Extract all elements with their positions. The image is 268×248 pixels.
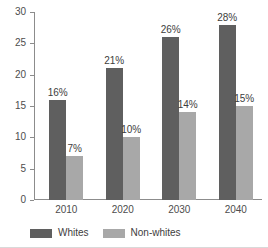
x-axis-label-2040: 2040 [206,205,266,215]
bar-group: 21%10% [106,12,140,200]
y-axis-tick [30,75,34,76]
legend-swatch-icon [103,229,125,238]
y-axis-tick-label: 5 [20,164,26,174]
bar-whites-2020: 21% [106,68,123,200]
y-axis-tick-label: 20 [15,70,26,80]
bar-whites-2040: 28% [219,25,236,200]
y-axis-tick [30,43,34,44]
y-axis-tick [30,106,34,107]
x-axis-label-2010: 2010 [36,205,96,215]
bar-group: 16%7% [49,12,83,200]
plot-area: 05101520253016%7%21%10%26%14%28%15% [34,12,260,200]
bar-value-label: 21% [104,56,124,66]
legend-label: Non-whites [131,228,181,238]
bar-non-whites-2010: 7% [66,156,83,200]
bar-value-label: 28% [217,13,237,23]
bar-non-whites-2020: 10% [123,137,140,200]
legend-item-whites[interactable]: Whites [30,228,89,238]
bar-value-label: 15% [234,94,254,104]
bar-value-label: 14% [178,100,198,110]
y-axis-tick-label: 25 [15,38,26,48]
x-axis-label-2020: 2020 [93,205,153,215]
legend-label: Whites [58,228,89,238]
chart-legend: WhitesNon-whites [30,228,181,238]
bar-value-label: 26% [161,25,181,35]
bar-group: 26%14% [162,12,196,200]
y-axis-tick [30,200,34,201]
y-axis-tick [30,12,34,13]
y-axis-tick [30,169,34,170]
x-axis-label-2030: 2030 [149,205,209,215]
y-axis-tick-label: 10 [15,132,26,142]
y-axis-tick-label: 30 [15,7,26,17]
bar-value-label: 16% [48,88,68,98]
bar-whites-2030: 26% [162,37,179,200]
legend-swatch-icon [30,229,52,238]
legend-item-non-whites[interactable]: Non-whites [103,228,181,238]
bar-value-label: 10% [121,125,141,135]
y-axis-tick-label: 15 [15,101,26,111]
bar-non-whites-2040: 15% [236,106,253,200]
bar-whites-2010: 16% [49,100,66,200]
bar-non-whites-2030: 14% [179,112,196,200]
bar-value-label: 7% [68,144,82,154]
y-axis-tick-label: 0 [20,195,26,205]
y-axis-tick [30,137,34,138]
bar-group: 28%15% [219,12,253,200]
bar-chart: 05101520253016%7%21%10%26%14%28%15% Whit… [0,0,268,248]
